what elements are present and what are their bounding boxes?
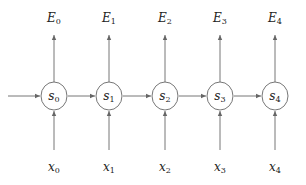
output-label-3: E3 bbox=[212, 11, 227, 26]
state-chain-diagram: s0 E0 x0 s1 E1 x1 s2 E2 x2 s3 E3 x3 s4 E… bbox=[0, 0, 306, 185]
node-s1: s1 E1 x1 bbox=[96, 11, 122, 175]
input-label-0: x0 bbox=[48, 160, 60, 175]
node-s2: s2 E2 x2 bbox=[152, 11, 178, 175]
input-label-1: x1 bbox=[103, 160, 115, 175]
node-s0: s0 E0 x0 bbox=[41, 11, 67, 175]
input-label-4: x4 bbox=[269, 160, 281, 175]
node-s4: s4 E4 x4 bbox=[262, 11, 288, 175]
input-label-3: x3 bbox=[214, 160, 226, 175]
output-label-0: E0 bbox=[46, 11, 61, 26]
input-label-2: x2 bbox=[159, 160, 171, 175]
output-label-2: E2 bbox=[157, 11, 172, 26]
output-label-1: E1 bbox=[101, 11, 116, 26]
node-s3: s3 E3 x3 bbox=[207, 11, 233, 175]
output-label-4: E4 bbox=[267, 11, 282, 26]
